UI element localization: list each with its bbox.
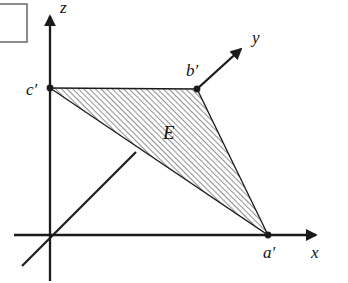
y-axis-positive-ray <box>197 49 241 89</box>
coordinate-figure: z x y c′ b′ a′ E <box>0 0 348 283</box>
x-axis-label: x <box>310 243 319 262</box>
point-c-prime-dot <box>47 85 54 92</box>
y-axis-negative-ray <box>22 152 136 266</box>
point-a-prime-label: a′ <box>263 243 276 262</box>
point-b-prime-dot <box>194 86 201 93</box>
corner-rectangle <box>0 4 27 42</box>
point-b-prime-label: b′ <box>186 61 199 80</box>
figure-root: z x y c′ b′ a′ E <box>0 0 348 283</box>
point-a-prime-dot <box>265 232 272 239</box>
point-c-prime-label: c′ <box>26 80 38 99</box>
region-e-label: E <box>162 122 175 143</box>
y-axis-label: y <box>250 28 260 47</box>
z-axis-label: z <box>59 0 67 17</box>
